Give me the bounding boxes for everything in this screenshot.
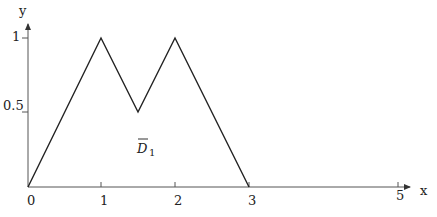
region-boundary [28,38,249,187]
diagram-canvas: y x 0 1 2 3 5 1 0.5 D 1 [0,0,437,217]
x-tick-label-2: 2 [174,193,182,208]
region-label: D [136,141,148,156]
x-tick-label-5: 5 [396,188,404,203]
y-tick-label-05: 0.5 [3,98,24,113]
origin-label: 0 [27,193,35,208]
x-tick-label-1: 1 [100,193,108,208]
y-tick-label-1: 1 [12,29,20,44]
region-label-subscript: 1 [149,147,155,158]
x-tick-label-3: 3 [248,193,256,208]
x-axis-label: x [420,183,428,198]
y-axis-label: y [18,3,27,18]
